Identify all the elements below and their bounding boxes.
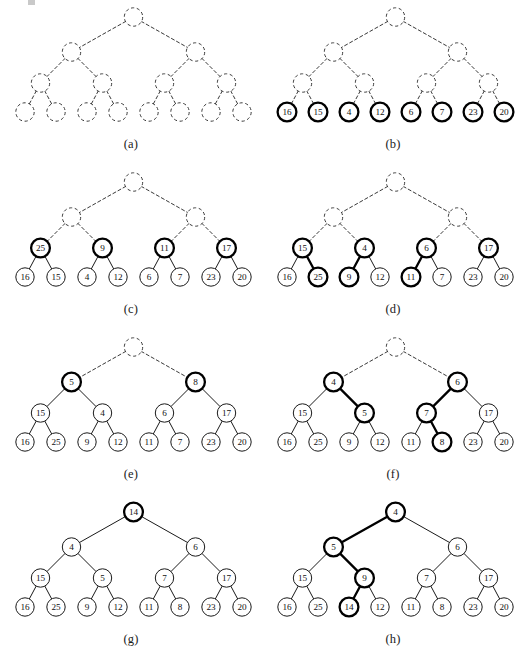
tree-node-empty: [324, 208, 342, 226]
node-value-label: 16: [282, 437, 292, 447]
tree-edge-n1-n4: [78, 553, 97, 572]
edge-group: [291, 516, 500, 599]
node-value-label: 11: [145, 602, 154, 612]
tree-node-25: 25: [47, 433, 65, 451]
tree-node-8: 8: [433, 433, 452, 452]
tree-edge-n0-n2: [141, 516, 188, 542]
node-value-label: 9: [362, 573, 367, 583]
node-group: [16, 8, 251, 121]
node-value-label: 6: [147, 272, 152, 282]
tree-edge-n5-n11: [415, 256, 422, 269]
tree-edge-n3-n8: [307, 421, 314, 434]
tree-node-empty: [171, 103, 189, 121]
tree-node-15: 15: [31, 569, 49, 587]
tree-node-20: 20: [233, 268, 251, 286]
tree-edge-n0-n1: [341, 186, 388, 212]
tree-node-empty: [140, 103, 158, 121]
node-value-label: 9: [347, 437, 352, 447]
tree-edge-n3-n8: [45, 586, 52, 599]
tree-node-20: 20: [233, 433, 251, 451]
tree-node-20: 20: [495, 433, 513, 451]
tree-node-23: 23: [202, 598, 220, 616]
node-value-label: 12: [375, 272, 385, 282]
tree-edge-n6-n14: [231, 586, 238, 599]
tree-edge-n2-n6: [464, 388, 482, 406]
tree-edge-n0-n1: [79, 186, 126, 212]
tree-edge-n2-n6: [202, 388, 220, 406]
tree-node-23: 23: [464, 598, 482, 616]
node-value-label: 25: [36, 243, 46, 253]
node-circle: [109, 103, 127, 121]
node-value-label: 4: [331, 377, 336, 387]
tree-edge-n6-n13: [215, 421, 222, 434]
tree-node-8: 8: [186, 373, 205, 392]
tree-edge-n1-n3: [309, 388, 327, 406]
node-circle: [386, 8, 404, 26]
node-value-label: 7: [162, 573, 167, 583]
node-value-label: 4: [362, 243, 367, 253]
tree-node-5: 5: [324, 538, 343, 557]
node-value-label: 25: [51, 437, 61, 447]
tree-edge-n6-n14: [231, 421, 238, 434]
tree-node-7: 7: [417, 404, 436, 423]
node-value-label: 20: [499, 107, 509, 117]
tree-edge-n4-n10: [369, 256, 376, 269]
tree-node-23: 23: [464, 268, 482, 286]
tree-node-17: 17: [479, 404, 497, 422]
node-value-label: 9: [347, 272, 352, 282]
node-group: 144615571716259121182320: [16, 503, 251, 617]
tree-edge-n5-n11: [153, 586, 160, 599]
tree-edge-n0-n2: [403, 516, 450, 542]
node-value-label: 15: [298, 243, 308, 253]
tree-edge-n2-n5: [171, 388, 189, 406]
tree-node-5: 5: [93, 569, 111, 587]
node-group: 25911171615412672320: [16, 173, 251, 286]
node-value-label: 20: [237, 437, 247, 447]
node-circle: [217, 74, 235, 92]
node-value-label: 7: [178, 437, 183, 447]
node-value-label: 7: [440, 107, 445, 117]
tree-node-17: 17: [217, 569, 235, 587]
tree-node-12: 12: [371, 103, 390, 122]
tree-node-6: 6: [140, 268, 158, 286]
tree-node-16: 16: [278, 598, 296, 616]
tree-panel-d: 15461716259121172320(d): [262, 165, 524, 330]
tree-node-4: 4: [386, 503, 405, 522]
tree-node-9: 9: [78, 598, 96, 616]
node-value-label: 11: [407, 437, 416, 447]
tree-node-9: 9: [78, 433, 96, 451]
node-value-label: 6: [455, 542, 460, 552]
node-value-label: 17: [222, 573, 232, 583]
node-value-label: 25: [313, 437, 323, 447]
tree-node-16: 16: [278, 433, 296, 451]
tree-edge-n2-n5: [433, 58, 452, 77]
tree-edge-n0-n2: [403, 186, 450, 212]
node-circle: [31, 74, 49, 92]
tree-edge-n2-n5: [433, 388, 451, 406]
tree-edge-n1-n3: [309, 58, 328, 77]
tree-edge-n4-n9: [91, 256, 98, 269]
node-value-label: 12: [113, 437, 123, 447]
edge-group: [291, 186, 500, 269]
tree-edge-n4-n10: [107, 421, 114, 434]
node-value-label: 20: [499, 272, 509, 282]
node-value-label: 14: [344, 602, 354, 612]
tree-edge-n1-n3: [47, 553, 66, 572]
tree-node-6: 6: [417, 239, 436, 258]
tree-node-4: 4: [340, 103, 359, 122]
tree-node-empty: [186, 43, 204, 61]
node-circle: [124, 173, 142, 191]
tree-edge-n1-n3: [47, 388, 65, 406]
tree-edge-n5-n12: [169, 256, 176, 269]
node-circle: [324, 43, 342, 61]
tree-node-empty: [124, 338, 142, 356]
tree-node-empty: [479, 74, 497, 92]
tree-node-6: 6: [448, 373, 467, 392]
node-value-label: 23: [206, 602, 216, 612]
tree-node-16: 16: [16, 433, 34, 451]
tree-node-15: 15: [31, 404, 49, 422]
node-value-label: 6: [455, 377, 460, 387]
tree-node-23: 23: [464, 103, 483, 122]
node-value-label: 4: [347, 107, 352, 117]
tree-node-empty: [386, 173, 404, 191]
